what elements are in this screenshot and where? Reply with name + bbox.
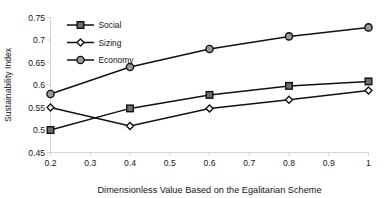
legend-label-economy: Economy bbox=[99, 55, 135, 65]
x-tick-label: 0.8 bbox=[283, 158, 295, 168]
data-point-sizing-0 bbox=[47, 104, 54, 111]
data-point-economy-0 bbox=[47, 90, 54, 97]
y-tick-label: 0.5 bbox=[33, 125, 45, 135]
legend-marker-economy bbox=[77, 56, 84, 63]
x-tick-label: 0.9 bbox=[323, 158, 335, 168]
x-tick-label: 0.6 bbox=[204, 158, 216, 168]
sustainability-index-line-chart: 0.450.50.550.60.650.70.750.20.30.40.50.6… bbox=[0, 0, 386, 198]
legend-marker-social bbox=[77, 22, 84, 29]
data-point-social-2 bbox=[206, 92, 213, 99]
data-point-economy-2 bbox=[206, 45, 213, 52]
legend-label-sizing: Sizing bbox=[99, 38, 122, 48]
data-point-social-1 bbox=[127, 105, 134, 112]
data-point-sizing-2 bbox=[206, 105, 213, 112]
data-point-social-0 bbox=[47, 127, 54, 134]
y-tick-label: 0.7 bbox=[33, 35, 45, 45]
data-point-sizing-3 bbox=[286, 96, 293, 103]
x-tick-label: 0.2 bbox=[45, 158, 57, 168]
x-axis-title: Dimensionless Value Based on the Egalita… bbox=[97, 185, 321, 195]
y-tick-label: 0.45 bbox=[28, 148, 45, 158]
data-point-social-4 bbox=[365, 78, 372, 85]
data-point-social-3 bbox=[286, 83, 293, 90]
data-point-sizing-4 bbox=[365, 87, 372, 94]
data-point-economy-3 bbox=[285, 33, 292, 40]
x-tick-label: 0.7 bbox=[243, 158, 255, 168]
chart-canvas: 0.450.50.550.60.650.70.750.20.30.40.50.6… bbox=[0, 0, 386, 198]
y-tick-label: 0.65 bbox=[28, 58, 45, 68]
data-point-economy-4 bbox=[365, 24, 372, 31]
y-tick-label: 0.75 bbox=[28, 13, 45, 23]
legend-label-social: Social bbox=[99, 20, 122, 30]
x-tick-label: 0.3 bbox=[84, 158, 96, 168]
data-point-sizing-1 bbox=[127, 122, 134, 129]
y-tick-label: 0.6 bbox=[33, 80, 45, 90]
x-tick-label: 1 bbox=[366, 158, 371, 168]
x-tick-label: 0.5 bbox=[164, 158, 176, 168]
y-tick-label: 0.55 bbox=[28, 103, 45, 113]
x-tick-label: 0.4 bbox=[124, 158, 136, 168]
legend-marker-sizing bbox=[77, 39, 84, 46]
y-axis-title: Sustainability Index bbox=[3, 47, 13, 122]
